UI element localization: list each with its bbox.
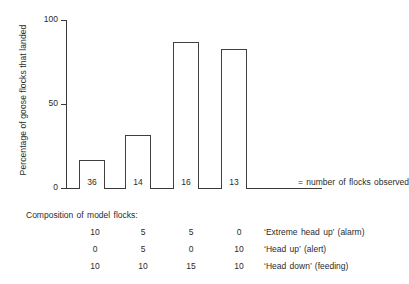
comp-cell: 0 (80, 244, 110, 254)
y-tick-50: 50 (61, 104, 66, 105)
y-tick-label-100: 100 (44, 14, 58, 24)
bar-count-label: 16 (174, 177, 198, 187)
y-tick-100: 100 (61, 20, 66, 21)
comp-cell: 0 (176, 244, 206, 254)
y-axis-line (66, 20, 67, 189)
bar-3: 16 (173, 42, 199, 189)
y-tick-label-50: 50 (49, 98, 58, 108)
y-tick-0: 0 (61, 188, 66, 189)
comp-cell: 5 (128, 227, 158, 237)
composition-row: 0 5 0 10 ‘Head up’ (alert) (0, 244, 397, 261)
bar-1: 36 (79, 160, 105, 189)
y-tick-label-0: 0 (53, 182, 58, 192)
composition-title: Composition of model flocks: (26, 210, 138, 220)
y-axis-title: Percentage of goose flocks that landed (18, 5, 28, 195)
bar-count-label: 14 (126, 177, 150, 187)
comp-cell: 10 (224, 244, 254, 254)
comp-cell: 0 (224, 227, 254, 237)
comp-cell: 5 (176, 227, 206, 237)
comp-cell: 10 (80, 261, 110, 271)
composition-row: 10 10 15 10 ‘Head down’ (feeding) (0, 261, 397, 278)
comp-row-label: ‘Extreme head up’ (alarm) (264, 227, 364, 237)
count-note: = number of flocks observed (298, 177, 409, 187)
comp-cell: 15 (176, 261, 206, 271)
plot-area: 100 50 0 36 14 16 13 = number of flocks … (66, 20, 391, 189)
composition-table: Composition of model flocks: 10 5 5 0 ‘E… (0, 200, 397, 284)
bar-4: 13 (221, 49, 247, 189)
bar-count-label: 13 (222, 177, 246, 187)
bar-count-label: 36 (80, 177, 104, 187)
comp-row-label: ‘Head up’ (alert) (264, 244, 326, 254)
bar-2: 14 (125, 135, 151, 189)
comp-cell: 10 (224, 261, 254, 271)
comp-row-label: ‘Head down’ (feeding) (264, 261, 348, 271)
composition-rows: 10 5 5 0 ‘Extreme head up’ (alarm) 0 5 0… (0, 227, 397, 278)
bar-chart: Percentage of goose flocks that landed 1… (0, 0, 397, 200)
comp-cell: 10 (80, 227, 110, 237)
comp-cell: 10 (128, 261, 158, 271)
comp-cell: 5 (128, 244, 158, 254)
composition-row: 10 5 5 0 ‘Extreme head up’ (alarm) (0, 227, 397, 244)
